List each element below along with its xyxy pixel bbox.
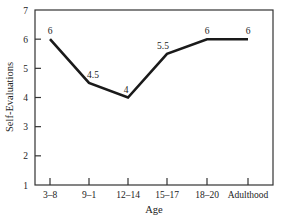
data-point-label: 6 [205,26,210,36]
x-tick-label: 15–17 [155,190,179,200]
data-series [50,39,248,97]
data-point-label: 6 [246,26,251,36]
y-tick-label: 4 [23,93,28,103]
data-point-label: 4.5 [87,70,99,80]
x-tick-label: 3–8 [43,190,58,200]
series-line [50,39,248,97]
y-tick-label: 5 [23,64,28,74]
y-tick-label: 2 [23,151,28,161]
y-tick-label: 6 [23,35,28,45]
y-axis-title: Self-Evaluations [4,62,15,132]
line-chart: 1234567 3–89–112–1415–1718–20Adulthood 6… [0,0,281,218]
y-axis: 1234567 [23,6,41,191]
x-tick-label: 12–14 [116,190,140,200]
data-point-label: 6 [48,26,53,36]
x-tick-label: Adulthood [228,190,269,200]
y-tick-label: 3 [23,122,28,132]
data-labels: 64.545.566 [48,26,251,94]
data-point-label: 4 [124,85,129,95]
y-tick-label: 7 [23,6,28,16]
x-tick-label: 18–20 [195,190,219,200]
y-tick-label: 1 [23,181,28,191]
x-tick-label: 9–1 [82,190,97,200]
x-axis: 3–89–112–1415–1718–20Adulthood [43,178,269,200]
plot-frame [35,10,273,185]
data-point-label: 5.5 [157,41,169,51]
x-axis-title: Age [145,204,163,215]
